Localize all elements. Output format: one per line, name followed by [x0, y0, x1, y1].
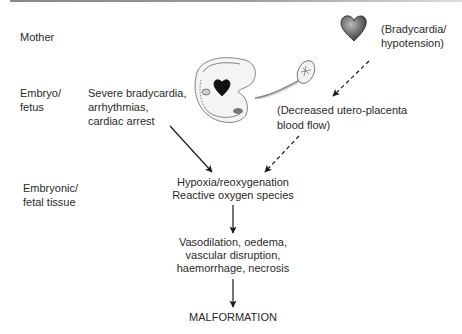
embryo-illustration	[195, 58, 318, 123]
arrow-placenta-to-hypoxia	[265, 136, 299, 172]
arrow-embryo-to-hypoxia	[170, 126, 212, 172]
heart-icon	[341, 16, 366, 41]
arrow-mother-to-placenta	[333, 61, 369, 96]
diagram-graphics	[0, 0, 462, 334]
